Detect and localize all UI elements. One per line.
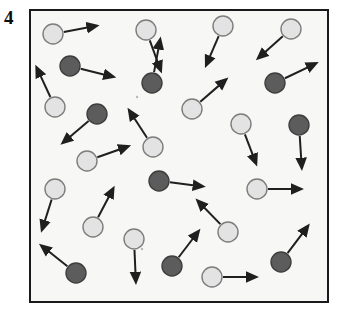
particle-circle bbox=[289, 115, 309, 135]
particle-circle bbox=[265, 73, 285, 93]
particle-circle bbox=[231, 114, 251, 134]
particle-circle bbox=[218, 222, 238, 242]
particle-circle bbox=[136, 20, 156, 40]
particle-circle bbox=[77, 151, 97, 171]
particle-circle bbox=[247, 179, 267, 199]
page-speck bbox=[141, 248, 143, 250]
particle-container-box bbox=[29, 9, 329, 303]
particle-circle bbox=[60, 56, 80, 76]
particle-circle bbox=[124, 229, 144, 249]
particle-circle bbox=[281, 19, 301, 39]
particle-circle bbox=[182, 99, 202, 119]
particle-canvas bbox=[29, 9, 329, 303]
particle-diagram-figure: 4 bbox=[0, 0, 345, 317]
particle-circle bbox=[87, 104, 107, 124]
particle-circle bbox=[45, 97, 65, 117]
particle-circle bbox=[43, 24, 63, 44]
panel-label: 4 bbox=[4, 8, 14, 27]
particle-circle bbox=[45, 179, 65, 199]
particle-circle bbox=[83, 217, 103, 237]
page-speck bbox=[136, 96, 138, 98]
particle-circle bbox=[149, 171, 169, 191]
particle-circle bbox=[142, 73, 162, 93]
particle-circle bbox=[143, 137, 163, 157]
particle-circle bbox=[271, 252, 291, 272]
particle-circle bbox=[162, 256, 182, 276]
particle-circle bbox=[202, 267, 222, 287]
particle-circle bbox=[66, 263, 86, 283]
velocity-vector bbox=[134, 250, 135, 274]
particle-circle bbox=[213, 16, 233, 36]
